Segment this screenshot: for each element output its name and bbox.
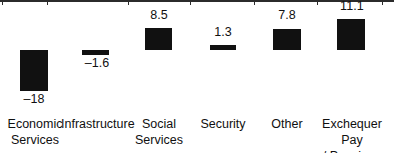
value-label-exchequer-pay-pensions: 11.1 bbox=[332, 0, 372, 13]
category-label-exchequer-pay-pensions: Exchequer Pay / Pensions bbox=[310, 116, 394, 153]
axis-tick-other bbox=[317, 0, 318, 5]
axis-tick-social-services bbox=[190, 0, 191, 5]
axis-tick-economic-services bbox=[47, 0, 48, 5]
axis-tick-exchequer bbox=[382, 0, 383, 5]
bar-chart: –18 –1.6 8.5 1.3 7.8 11.1 Economic Servi… bbox=[0, 0, 394, 153]
bar-economic-services bbox=[20, 50, 48, 91]
category-label-other: Other bbox=[258, 116, 316, 132]
axis-tick-left bbox=[2, 0, 3, 5]
bar-other bbox=[273, 29, 301, 50]
axis-tick-infrastructure bbox=[128, 0, 129, 5]
value-label-social-services: 8.5 bbox=[142, 9, 176, 22]
category-label-infrastructure: Infrastructure bbox=[61, 116, 131, 132]
category-axis: Economic Services Infrastructure Social … bbox=[0, 114, 394, 153]
bar-infrastructure bbox=[82, 50, 109, 55]
value-label-infrastructure: –1.6 bbox=[76, 57, 118, 70]
category-label-security: Security bbox=[192, 116, 254, 132]
bar-exchequer-pay-pensions bbox=[337, 19, 365, 50]
value-label-economic-services: –18 bbox=[15, 93, 53, 106]
axis-tick-security bbox=[254, 0, 255, 5]
category-label-economic-services: Economic Services bbox=[2, 116, 68, 148]
value-label-other: 7.8 bbox=[270, 9, 304, 22]
plot-area: –18 –1.6 8.5 1.3 7.8 11.1 bbox=[0, 0, 394, 114]
bar-social-services bbox=[145, 28, 172, 50]
value-label-security: 1.3 bbox=[206, 26, 240, 39]
bar-security bbox=[210, 45, 236, 50]
category-label-social-services: Social Services bbox=[128, 116, 190, 148]
